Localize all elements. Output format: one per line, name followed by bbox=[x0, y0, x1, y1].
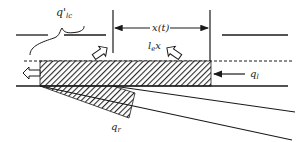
merge-diagram: q'lc x(t) lex ql qr bbox=[0, 0, 304, 142]
lane-change-arrow-icon-left bbox=[91, 43, 111, 62]
outflow-arrow-icon bbox=[23, 67, 40, 79]
queue-region bbox=[40, 61, 211, 86]
label-q-lc: q'lc bbox=[56, 6, 72, 20]
label-x-t: x(t) bbox=[152, 22, 170, 33]
lane-change-arrow-icon-right bbox=[163, 43, 183, 62]
ramp-queue-region bbox=[40, 86, 135, 118]
brace-q-lc bbox=[30, 26, 84, 55]
label-l-e-x: lex bbox=[148, 40, 161, 53]
label-q-l: ql bbox=[250, 68, 259, 81]
label-q-r: qr bbox=[111, 121, 121, 134]
